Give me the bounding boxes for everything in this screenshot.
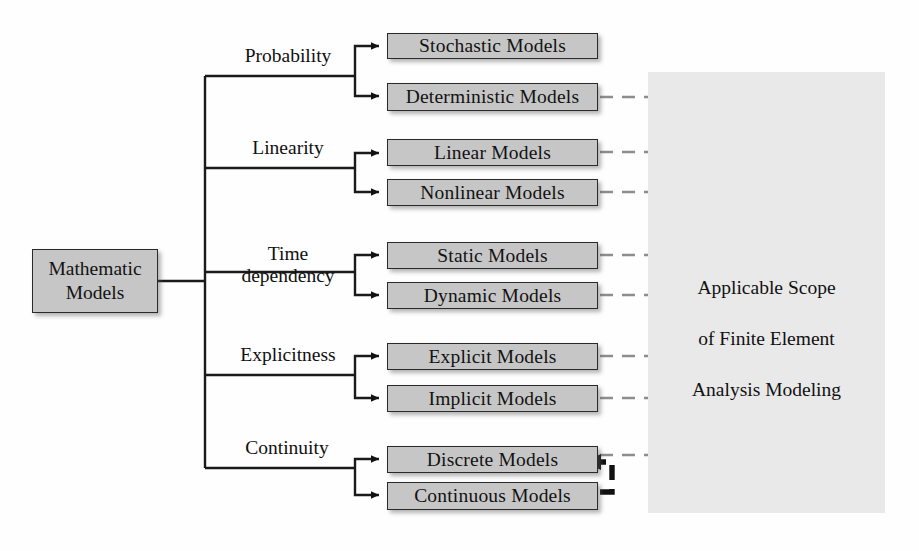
node-stochastic-models[interactable]: Stochastic Models <box>387 33 598 59</box>
scope-caption-line2: of Finite Element <box>648 326 885 351</box>
node-nonlinear-models[interactable]: Nonlinear Models <box>387 179 598 206</box>
node-linear-models[interactable]: Linear Models <box>387 139 598 166</box>
node-discrete-models[interactable]: Discrete Models <box>387 446 598 473</box>
branch-label-linearity: Linearity <box>225 137 351 159</box>
node-continuous-models[interactable]: Continuous Models <box>387 482 598 510</box>
scope-caption-line3: Analysis Modeling <box>648 377 885 402</box>
node-root[interactable]: Mathematic Models <box>32 249 158 313</box>
root-label-line1: Mathematic <box>48 257 141 281</box>
branch-label-probability: Probability <box>225 45 351 67</box>
branch-label-explicitness: Explicitness <box>218 344 358 366</box>
node-implicit-models[interactable]: Implicit Models <box>387 385 598 412</box>
node-static-models[interactable]: Static Models <box>387 242 598 269</box>
diagram-canvas: Mathematic Models Probability Linearity … <box>0 0 919 551</box>
root-label-line2: Models <box>66 281 125 305</box>
node-explicit-models[interactable]: Explicit Models <box>387 343 598 370</box>
node-dynamic-models[interactable]: Dynamic Models <box>387 282 598 309</box>
branch-label-continuity: Continuity <box>222 437 352 459</box>
branch-label-time-dependency: Time dependency <box>225 243 351 287</box>
node-deterministic-models[interactable]: Deterministic Models <box>387 83 598 111</box>
applicable-scope-caption: Applicable Scope of Finite Element Analy… <box>648 250 885 427</box>
scope-caption-line1: Applicable Scope <box>648 275 885 300</box>
